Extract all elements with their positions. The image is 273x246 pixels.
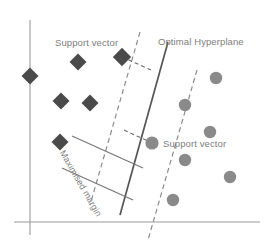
optimal-hyperplane-label: Optimal Hyperplane xyxy=(158,36,244,47)
data-point-diamond xyxy=(82,95,99,112)
margin-width-connectors-group xyxy=(122,57,152,143)
data-point-circle xyxy=(179,154,191,166)
margin-boundaries-group xyxy=(90,32,197,240)
data-point-diamond xyxy=(70,54,87,71)
axes-group xyxy=(14,20,260,235)
data-point-circle xyxy=(224,171,236,183)
support-vector-top-label: Support vector xyxy=(55,37,118,48)
data-point-circle xyxy=(167,194,179,206)
optimal-hyperplane-line xyxy=(120,42,168,215)
class-negative-markers xyxy=(22,48,132,151)
svm-diagram: Support vector Optimal Hyperplane Suppor… xyxy=(0,0,273,246)
data-point-circle xyxy=(210,72,222,84)
data-point-diamond xyxy=(53,93,70,110)
margin-boundary-positive-line xyxy=(148,70,197,240)
support-vector-diamond xyxy=(113,48,131,66)
data-point-circle xyxy=(179,99,191,111)
data-point-diamond xyxy=(22,68,39,85)
support-vector-bottom-label: Support vector xyxy=(163,138,226,149)
data-point-circle xyxy=(204,126,216,138)
margin-indicator-upper-line xyxy=(72,136,143,168)
support-vector-circle xyxy=(145,136,158,149)
